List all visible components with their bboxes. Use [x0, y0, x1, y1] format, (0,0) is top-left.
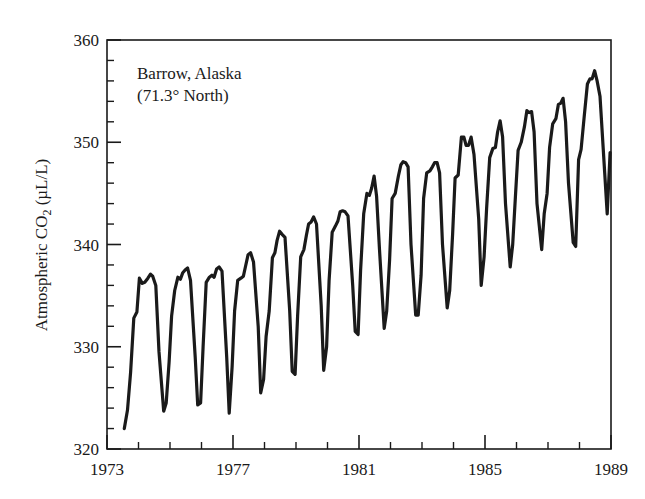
y-axis-label: Atmospheric CO2 (µL/L): [32, 159, 54, 332]
x-tick-label: 1989: [594, 460, 628, 479]
co2-chart: 32033034035036019731977198119851989 Barr…: [0, 0, 645, 499]
y-axis-label-pre: Atmospheric CO: [32, 216, 51, 332]
latitude-label: (71.3° North): [137, 86, 229, 105]
y-tick-label: 340: [74, 236, 100, 255]
x-tick-label: 1977: [216, 460, 251, 479]
co2-series-line: [124, 71, 610, 429]
y-tick-label: 330: [74, 338, 100, 357]
y-tick-label: 320: [74, 440, 100, 459]
y-axis-label-post: (µL/L): [32, 159, 51, 210]
y-tick-label: 360: [74, 31, 100, 50]
x-tick-label: 1985: [468, 460, 502, 479]
x-tick-label: 1973: [90, 460, 124, 479]
y-tick-label: 350: [74, 133, 100, 152]
x-tick-label: 1981: [342, 460, 376, 479]
station-label: Barrow, Alaska: [137, 64, 242, 83]
